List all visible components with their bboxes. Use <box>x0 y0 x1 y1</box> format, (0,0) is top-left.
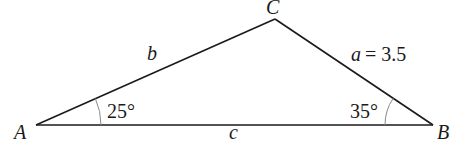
angle-arc-a <box>95 99 101 125</box>
side-label-a: a= 3.5 <box>351 43 406 65</box>
vertex-label-b: B <box>437 121 449 143</box>
side-label-c: c <box>229 121 238 143</box>
side-b <box>36 19 275 125</box>
angle-arc-b <box>385 98 393 125</box>
vertex-label-a: A <box>12 121 27 143</box>
vertex-label-c: C <box>266 0 280 18</box>
angle-label-b: 35° <box>350 100 378 122</box>
angle-label-a: 25° <box>107 100 135 122</box>
triangle-diagram: A B C b c a= 3.5 25° 35° <box>0 0 452 157</box>
side-label-b: b <box>147 42 157 64</box>
